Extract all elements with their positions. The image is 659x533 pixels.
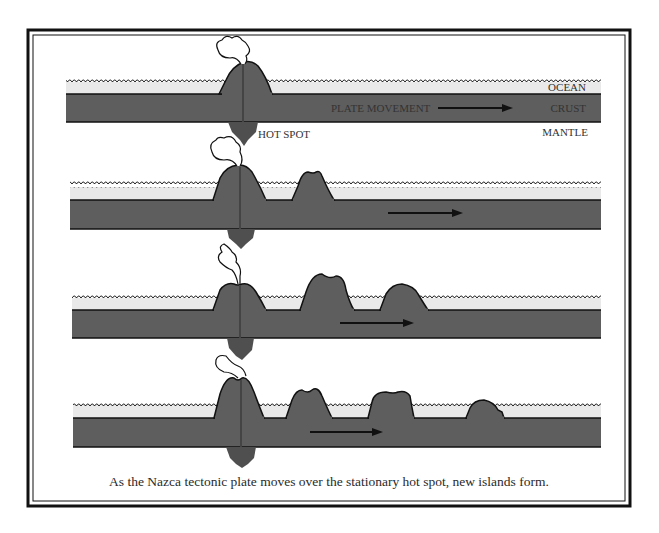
- island-2: [368, 392, 414, 419]
- hot-spot-plume: [226, 447, 256, 468]
- stage-4: [73, 356, 601, 469]
- stage-1: OCEAN CRUST MANTLE HOT SPOT PLATE MOVEME…: [66, 36, 601, 146]
- figure-caption: As the Nazca tectonic plate moves over t…: [109, 474, 549, 489]
- volcano-active: [219, 62, 272, 95]
- label-plate-movement: PLATE MOVEMENT: [331, 102, 431, 114]
- island-1: [286, 389, 332, 418]
- smoke-plume-icon: [211, 137, 242, 166]
- hotspot-diagram: OCEAN CRUST MANTLE HOT SPOT PLATE MOVEME…: [0, 0, 659, 533]
- island-1: [300, 274, 354, 310]
- ocean-layer: [66, 82, 601, 94]
- smoke-plume-icon: [217, 36, 250, 64]
- hot-spot-plume: [227, 229, 255, 249]
- label-crust: CRUST: [551, 102, 587, 114]
- hot-spot-plume: [227, 338, 254, 360]
- label-ocean: OCEAN: [548, 81, 586, 93]
- stage-3: [72, 244, 601, 360]
- label-mantle: MANTLE: [542, 126, 588, 138]
- label-hot-spot: HOT SPOT: [258, 128, 310, 140]
- volcano-active: [214, 378, 264, 418]
- smoke-plume-icon: [218, 244, 240, 284]
- wave-line: [66, 76, 601, 83]
- stage-2: [70, 137, 601, 249]
